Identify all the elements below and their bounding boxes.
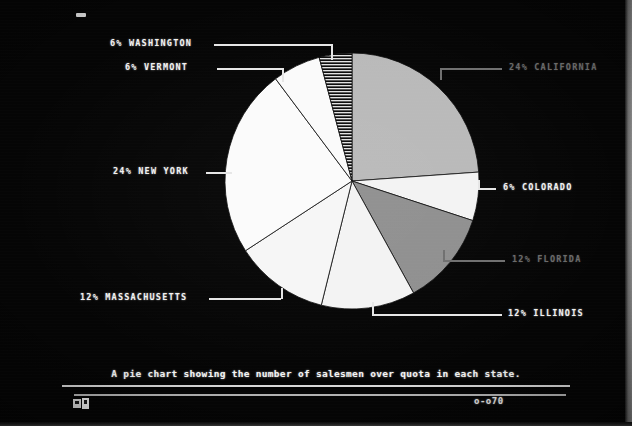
leader-vermont-v xyxy=(282,68,284,82)
leader-newyork-h xyxy=(206,172,232,174)
slice-label-washington: 6% WASHINGTON xyxy=(110,38,192,48)
leader-california-v xyxy=(440,68,442,80)
leader-massachusetts-v xyxy=(281,288,283,299)
slice-label-colorado: 6% COLORADO xyxy=(503,182,573,192)
slice-label-illinois: 12% ILLINOIS xyxy=(508,308,584,318)
pie-chart xyxy=(224,52,480,310)
pie-slice-california xyxy=(352,53,479,181)
page-marker: o-o70 xyxy=(474,396,504,406)
leader-washington-v xyxy=(331,44,333,60)
leader-florida-v xyxy=(443,250,445,261)
slice-label-vermont: 6% VERMONT xyxy=(125,62,188,72)
floppy-disk-icon[interactable] xyxy=(73,398,91,410)
caption-divider xyxy=(62,385,570,387)
slice-label-florida: 12% FLORIDA xyxy=(512,254,582,264)
crt-screen: 6% WASHINGTON 6% VERMONT 24% NEW YORK 12… xyxy=(0,0,632,426)
leader-california-h xyxy=(440,68,502,70)
leader-vermont-h xyxy=(217,68,283,70)
leader-florida-h xyxy=(443,260,505,262)
leader-colorado-v xyxy=(478,180,480,189)
leader-illinois-v xyxy=(372,302,374,315)
chart-caption: A pie chart showing the number of salesm… xyxy=(0,368,632,379)
photo-edge-right xyxy=(625,0,632,426)
photo-edge-bottom xyxy=(0,422,632,426)
slice-label-massachusetts: 12% MASSACHUSETTS xyxy=(80,292,187,302)
leader-massachusetts-h xyxy=(209,298,281,300)
slice-label-newyork: 24% NEW YORK xyxy=(113,166,189,176)
top-marker-dash xyxy=(76,13,86,17)
leader-colorado-h xyxy=(478,188,496,190)
slice-label-california: 24% CALIFORNIA xyxy=(509,62,597,72)
pie-chart-svg xyxy=(224,52,480,310)
leader-illinois-h xyxy=(372,314,502,316)
leader-washington-h xyxy=(214,44,332,46)
